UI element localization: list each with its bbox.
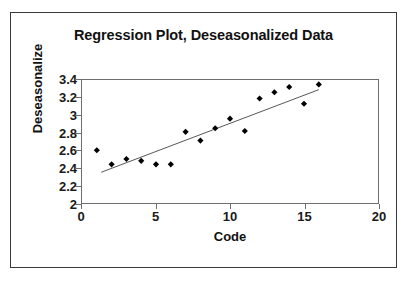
x-tick-label: 5	[152, 209, 159, 224]
data-point-marker	[242, 128, 248, 134]
scatter-points	[94, 81, 322, 167]
plot-area	[81, 79, 379, 204]
data-point-marker	[212, 125, 218, 131]
data-point-marker	[109, 161, 115, 167]
data-point-marker	[168, 161, 174, 167]
data-point-marker	[316, 81, 322, 87]
x-tick-label: 0	[77, 209, 84, 224]
trendline-path	[101, 90, 319, 173]
data-point-marker	[138, 158, 144, 164]
data-point-marker	[271, 89, 277, 95]
data-point-marker	[227, 116, 233, 122]
data-point-marker	[301, 101, 307, 107]
trendline	[101, 90, 319, 173]
data-point-marker	[94, 147, 100, 153]
y-axis-label: Deseasonalize	[30, 29, 45, 149]
x-tick-label: 20	[372, 209, 386, 224]
data-point-marker	[286, 84, 292, 90]
x-axis-label: Code	[81, 229, 379, 244]
data-point-marker	[153, 161, 159, 167]
data-point-marker	[257, 95, 263, 101]
chart-title: Regression Plot, Deseasonalized Data	[11, 27, 396, 43]
data-point-marker	[183, 129, 189, 135]
plot-svg	[82, 80, 378, 203]
data-point-marker	[197, 138, 203, 144]
x-tick-label: 15	[297, 209, 311, 224]
chart-figure-frame: Regression Plot, Deseasonalized Data 22.…	[10, 12, 397, 268]
x-tick-label: 10	[223, 209, 237, 224]
x-axis-tick-labels: 05101520	[81, 209, 379, 227]
data-point-marker	[123, 156, 129, 162]
